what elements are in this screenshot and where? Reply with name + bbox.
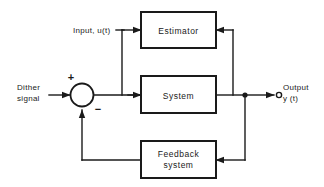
block-feedback-system-label-line1: Feedback	[158, 149, 200, 159]
summing-junction-minus-sign: −	[95, 103, 101, 115]
output-signal-label-line2: y (t)	[283, 94, 298, 103]
block-feedback-system-label-line2: system	[164, 160, 194, 170]
block-estimator-label: Estimator	[158, 26, 198, 36]
output-terminal-circle	[276, 92, 281, 97]
block-diagram-canvas: + − Estimator System Feedback system Dit…	[0, 0, 324, 187]
dither-signal-label-line1: Dither	[17, 83, 40, 92]
dither-signal-label-line2: signal	[17, 94, 40, 103]
input-signal-label: Input, u(t)	[73, 26, 111, 35]
block-diagram-svg: + − Estimator System Feedback system Dit…	[0, 0, 324, 187]
summing-junction	[71, 84, 94, 107]
output-junction-dot	[242, 92, 247, 97]
output-signal-label-line1: Output	[283, 83, 309, 92]
block-system-label: System	[163, 91, 194, 101]
summing-junction-plus-sign: +	[68, 71, 74, 83]
